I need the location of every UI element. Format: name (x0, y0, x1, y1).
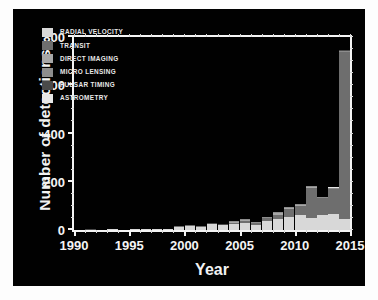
x-tick-minor (306, 230, 307, 233)
bar-segment (317, 198, 327, 215)
x-tick-top (273, 34, 274, 37)
bar-segment (306, 218, 316, 230)
y-tick-minor (71, 193, 74, 194)
legend-swatch (42, 68, 53, 77)
bar-segment (273, 219, 283, 230)
x-tick-minor (284, 230, 285, 233)
bar-segment (262, 221, 272, 230)
x-tick (129, 230, 131, 236)
bar-2010 (295, 204, 305, 230)
x-tick-minor (195, 230, 196, 233)
legend-item-pulsar-timing: PULSAR TIMING (42, 79, 123, 92)
y-tick-right (350, 84, 353, 85)
legend-item-radial-velocity: RADIAL VELOCITY (42, 26, 123, 39)
x-tick-label: 2005 (225, 238, 254, 253)
x-tick-top (339, 34, 340, 37)
bar-segment (251, 222, 261, 223)
x-tick (184, 230, 186, 236)
bar-1999 (174, 227, 184, 230)
bar-segment (251, 223, 261, 225)
y-tick-right (350, 133, 353, 134)
bar-segment (218, 225, 228, 230)
x-tick-minor (85, 230, 86, 233)
y-tick-right (350, 72, 353, 73)
x-tick-top (162, 34, 163, 37)
bar-segment (240, 221, 250, 223)
x-tick-top (151, 34, 152, 37)
legend-label: DIRECT IMAGING (60, 56, 119, 62)
bar-segment (229, 224, 239, 230)
y-tick-right (350, 205, 353, 206)
bar-2006 (251, 222, 261, 230)
bar-segment (295, 206, 305, 215)
x-tick-top (173, 34, 174, 37)
bar-segment (262, 218, 272, 221)
bar-1991 (85, 229, 95, 230)
x-tick-minor (339, 230, 340, 233)
x-tick (350, 230, 352, 236)
bar-segment (240, 219, 250, 220)
bar-2002 (207, 224, 217, 230)
x-tick-minor (96, 230, 97, 233)
x-tick-minor (162, 230, 163, 233)
x-tick-top (317, 34, 318, 37)
x-axis-title: Year (72, 261, 352, 279)
bar-segment (328, 214, 338, 230)
bar-segment (339, 52, 349, 218)
legend-label: RADIAL VELOCITY (60, 29, 123, 35)
bar-segment (295, 204, 305, 205)
bar-1998 (163, 229, 173, 230)
bar-2003 (218, 224, 228, 230)
bar-segment (339, 219, 349, 230)
bar-1993 (107, 229, 117, 230)
bar-segment (229, 221, 239, 222)
y-tick-label: 200 (43, 174, 65, 189)
x-tick-top (306, 34, 307, 37)
x-tick (74, 230, 76, 236)
x-tick-label: 2015 (336, 238, 365, 253)
y-tick-right (350, 229, 353, 230)
legend-label: ASTROMETRY (60, 95, 108, 101)
x-tick-label: 1995 (115, 238, 144, 253)
bar-segment (163, 229, 173, 230)
legend: RADIAL VELOCITYTRANSITDIRECT IMAGINGMICR… (42, 26, 123, 105)
x-tick-top (328, 34, 329, 37)
y-tick-right (350, 120, 353, 121)
x-tick-top (240, 34, 241, 37)
legend-item-micro-lensing: MICRO LENSING (42, 66, 123, 79)
bar-2008 (273, 212, 283, 230)
legend-swatch (42, 41, 53, 50)
x-tick-top (251, 34, 252, 37)
x-tick-label: 2010 (280, 238, 309, 253)
y-tick-right (350, 108, 353, 109)
legend-swatch (42, 94, 53, 103)
bar-2007 (262, 217, 272, 230)
x-tick-top (184, 34, 185, 37)
bar-segment (273, 215, 283, 219)
x-tick-minor (218, 230, 219, 233)
legend-label: TRANSIT (60, 43, 90, 49)
bar-segment (196, 226, 206, 227)
y-tick-label: 0 (58, 223, 65, 238)
bar-segment (339, 50, 349, 51)
bar-2012 (317, 197, 327, 230)
x-tick-minor (206, 230, 207, 233)
bar-2014 (339, 51, 349, 230)
x-tick-minor (118, 230, 119, 233)
bar-segment (251, 225, 261, 230)
bar-segment (85, 229, 95, 230)
bar-2001 (196, 227, 206, 230)
y-tick-right (350, 36, 353, 37)
y-tick-right (350, 157, 353, 158)
y-tick-right (350, 48, 353, 49)
chart-canvas: Number of detections 0200400600800 19901… (13, 9, 365, 286)
y-tick-right (350, 217, 353, 218)
legend-label: MICRO LENSING (60, 69, 116, 75)
bar-segment (273, 212, 283, 213)
y-tick (68, 180, 74, 182)
legend-item-astrometry: ASTROMETRY (42, 92, 123, 105)
x-tick-top (262, 34, 263, 37)
legend-swatch (42, 54, 53, 63)
x-tick-minor (317, 230, 318, 233)
legend-label: PULSAR TIMING (60, 82, 115, 88)
